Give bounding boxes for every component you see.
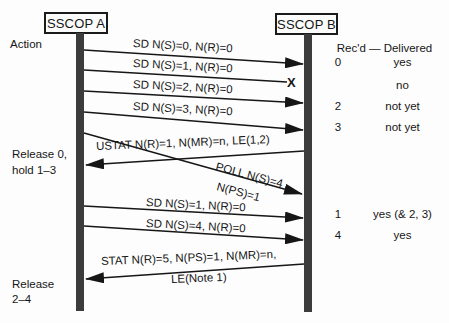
recd-delivered-header: Rec'd — Delivered — [320, 42, 449, 54]
recd-value: 4 — [326, 229, 350, 241]
release-2-4-label-line1: Release — [12, 277, 54, 291]
recd-value: 2 — [326, 100, 350, 112]
sequence-diagram: SSCOP A SSCOP B X SD N(S)=0, N(R)=0 SD N… — [0, 0, 449, 323]
delivered-value: yes — [356, 56, 449, 68]
delivered-value: not yet — [356, 100, 449, 112]
delivered-value: yes — [356, 229, 449, 241]
arrow-ustat — [86, 151, 304, 165]
delivered-value: not yet — [356, 121, 449, 133]
delivered-value: no — [356, 79, 449, 91]
message-label-stat-le: LE(Note 1) — [171, 271, 227, 286]
release-hold-label-line2: hold 1–3 — [12, 163, 56, 177]
table-row: 1 yes (& 2, 3) — [0, 208, 449, 222]
action-label: Action — [10, 37, 42, 51]
table-row: no — [0, 79, 449, 93]
table-row: 0 yes — [0, 56, 449, 70]
delivered-value: yes (& 2, 3) — [356, 208, 449, 220]
recd-value: 0 — [326, 56, 350, 68]
recd-value: 3 — [326, 121, 350, 133]
release-hold-label-line1: Release 0, — [12, 147, 67, 161]
table-row: 3 not yet — [0, 121, 449, 135]
table-row: 2 not yet — [0, 100, 449, 114]
release-2-4-label-line2: 2–4 — [12, 292, 31, 306]
table-row: 4 yes — [0, 229, 449, 243]
recd-value: 1 — [326, 208, 350, 220]
